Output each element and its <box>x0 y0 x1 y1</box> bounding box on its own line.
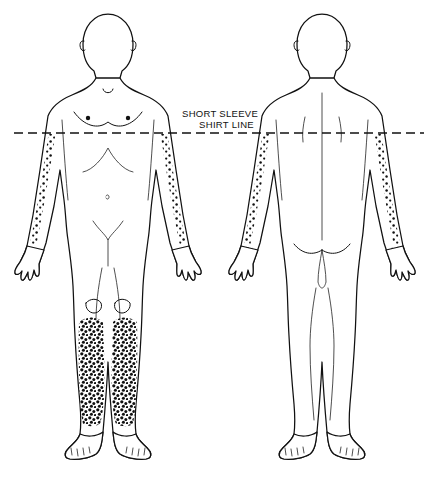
anterior-left-shin-affected-area <box>79 318 105 427</box>
posterior-right-hand <box>386 246 415 280</box>
anterior-left-hand <box>15 246 44 280</box>
posterior-left-hand <box>229 246 258 280</box>
shirt-line-label-line1: SHORT SLEEVE <box>182 108 258 119</box>
posterior-head <box>297 14 347 78</box>
anterior-figure <box>15 14 201 459</box>
shirt-line-label: SHORT SLEEVESHIRT LINE <box>182 108 254 130</box>
right-nipple-marker <box>126 116 130 120</box>
shirt-line-label-line2: SHIRT LINE <box>199 119 254 130</box>
anterior-body-outline <box>15 78 201 459</box>
anterior-right-shin-affected-area <box>112 318 138 427</box>
body-diagram-canvas: SHORT SLEEVESHIRT LINE <box>0 0 434 482</box>
posterior-figure <box>229 14 415 459</box>
anterior-head <box>83 14 133 78</box>
body-diagram-svg <box>0 0 434 482</box>
left-nipple-marker <box>86 116 90 120</box>
anterior-right-hand <box>172 246 201 280</box>
